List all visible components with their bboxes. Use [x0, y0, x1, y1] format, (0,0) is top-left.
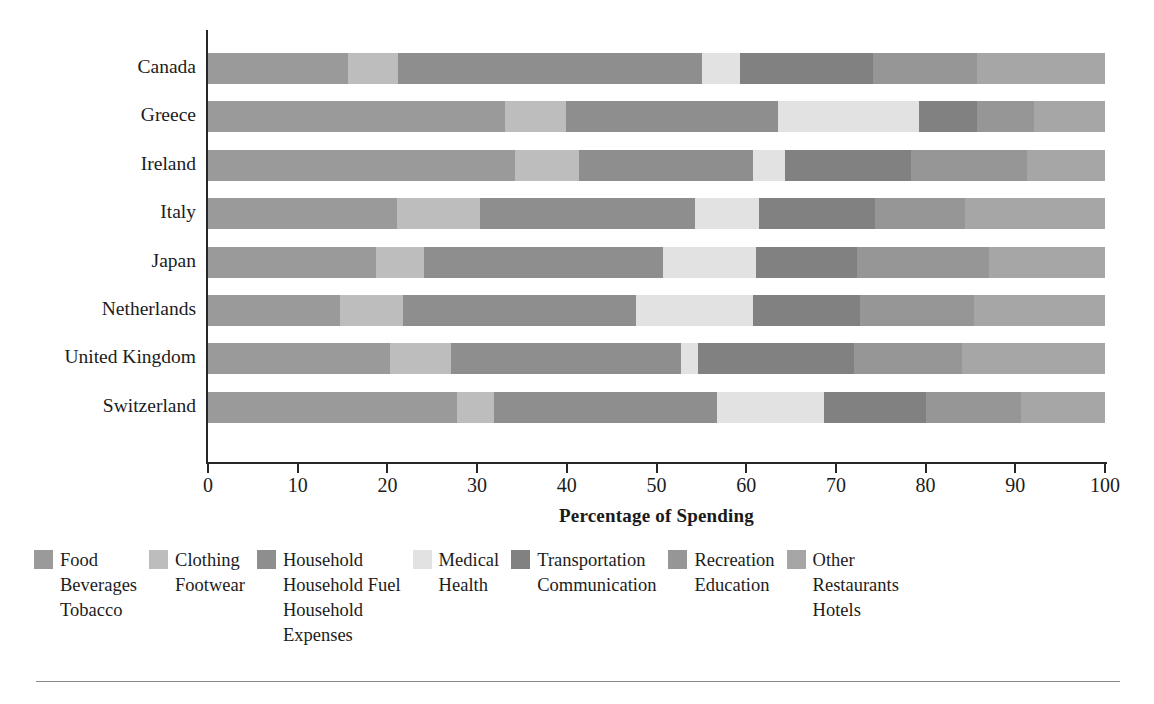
legend-item[interactable]: FoodBeveragesTobacco	[34, 548, 137, 623]
legend-label-line: Recreation	[694, 548, 774, 573]
x-axis-tick	[386, 464, 388, 473]
stacked-bar	[208, 53, 1105, 84]
bar-row	[208, 392, 1105, 423]
bar-segment	[505, 101, 566, 132]
x-axis-tick-label: 40	[557, 474, 577, 497]
bar-row	[208, 295, 1105, 326]
bar-segment	[208, 295, 340, 326]
legend-label-line: Communication	[537, 573, 656, 598]
x-axis-tick-label: 30	[467, 474, 487, 497]
legend-swatch-icon	[34, 550, 53, 569]
bar-segment	[208, 198, 397, 229]
bar-segment	[824, 392, 925, 423]
y-axis-tick-label: Switzerland	[0, 395, 196, 417]
legend-swatch-icon	[511, 550, 530, 569]
bar-segment	[702, 53, 740, 84]
y-axis-tick-label: Ireland	[0, 153, 196, 175]
bar-row	[208, 247, 1105, 278]
legend-label-line: Medical	[439, 548, 500, 573]
legend-label-line: Household Fuel	[283, 573, 401, 598]
x-axis-tick	[925, 464, 927, 473]
figure-bottom-rule	[36, 681, 1120, 682]
bar-segment	[208, 53, 348, 84]
bar-segment	[398, 53, 702, 84]
legend-label: HouseholdHousehold FuelHouseholdExpenses	[283, 548, 401, 648]
legend-label: ClothingFootwear	[175, 548, 245, 598]
y-axis-tick-label: Japan	[0, 250, 196, 272]
bar-segment	[919, 101, 976, 132]
x-axis-tick	[1104, 464, 1106, 473]
bar-segment	[663, 247, 756, 278]
bar-segment	[390, 343, 451, 374]
stacked-bar	[208, 198, 1105, 229]
stacked-bar	[208, 150, 1105, 181]
legend-label-line: Household	[283, 548, 401, 573]
figure-container: CanadaGreeceIrelandItalyJapanNetherlands…	[0, 0, 1154, 704]
bar-segment	[636, 295, 754, 326]
x-axis-tick-label: 50	[647, 474, 667, 497]
x-axis-tick	[476, 464, 478, 473]
bar-segment	[480, 198, 695, 229]
bar-segment	[785, 150, 911, 181]
x-axis-tick-label: 80	[916, 474, 936, 497]
bar-segment	[962, 343, 1105, 374]
legend-label-line: Household	[283, 598, 401, 623]
bar-segment	[854, 343, 963, 374]
bar-row	[208, 101, 1105, 132]
bar-segment	[873, 53, 977, 84]
bar-segment	[1027, 150, 1105, 181]
bar-row	[208, 150, 1105, 181]
bar-segment	[860, 295, 974, 326]
bar-segment	[424, 247, 663, 278]
bar-segment	[753, 295, 860, 326]
legend-swatch-icon	[149, 550, 168, 569]
legend-item[interactable]: HouseholdHousehold FuelHouseholdExpenses	[257, 548, 401, 648]
x-axis-tick	[835, 464, 837, 473]
stacked-bar	[208, 247, 1105, 278]
bar-segment	[494, 392, 716, 423]
bar-segment	[717, 392, 825, 423]
y-axis-tick-label: Canada	[0, 56, 196, 78]
bar-segment	[208, 392, 457, 423]
legend-label-line: Hotels	[813, 598, 899, 623]
legend-label: MedicalHealth	[439, 548, 500, 598]
legend-item[interactable]: TransportationCommunication	[511, 548, 656, 598]
legend-label: RecreationEducation	[694, 548, 774, 598]
bar-segment	[740, 53, 873, 84]
legend-item[interactable]: RecreationEducation	[668, 548, 774, 598]
legend-swatch-icon	[787, 550, 806, 569]
x-axis-tick-label: 60	[736, 474, 756, 497]
legend-label-line: Health	[439, 573, 500, 598]
legend-label-line: Beverages	[60, 573, 137, 598]
legend-item[interactable]: MedicalHealth	[413, 548, 500, 598]
bar-segment	[759, 198, 876, 229]
legend-swatch-icon	[257, 550, 276, 569]
stacked-bar	[208, 295, 1105, 326]
bar-segment	[515, 150, 580, 181]
bar-segment	[681, 343, 698, 374]
bar-segment	[977, 101, 1034, 132]
bar-segment	[965, 198, 1105, 229]
x-axis-tick	[297, 464, 299, 473]
bar-segment	[911, 150, 1027, 181]
legend-swatch-icon	[413, 550, 432, 569]
bar-segment	[695, 198, 759, 229]
bar-segment	[376, 247, 424, 278]
x-axis-tick	[1014, 464, 1016, 473]
legend-label-line: Food	[60, 548, 137, 573]
stacked-bar	[208, 392, 1105, 423]
bar-segment	[875, 198, 965, 229]
legend-item[interactable]: OtherRestaurantsHotels	[787, 548, 899, 623]
legend-item[interactable]: ClothingFootwear	[149, 548, 245, 598]
x-axis-tick	[745, 464, 747, 473]
bar-row	[208, 198, 1105, 229]
legend-label-line: Footwear	[175, 573, 245, 598]
legend-label-line: Education	[694, 573, 774, 598]
legend-label-line: Restaurants	[813, 573, 899, 598]
bar-segment	[340, 295, 403, 326]
stacked-bar	[208, 101, 1105, 132]
chart-legend: FoodBeveragesTobaccoClothingFootwearHous…	[34, 548, 1130, 648]
x-axis-tick-label: 20	[377, 474, 397, 497]
legend-label: OtherRestaurantsHotels	[813, 548, 899, 623]
bar-segment	[1021, 392, 1105, 423]
